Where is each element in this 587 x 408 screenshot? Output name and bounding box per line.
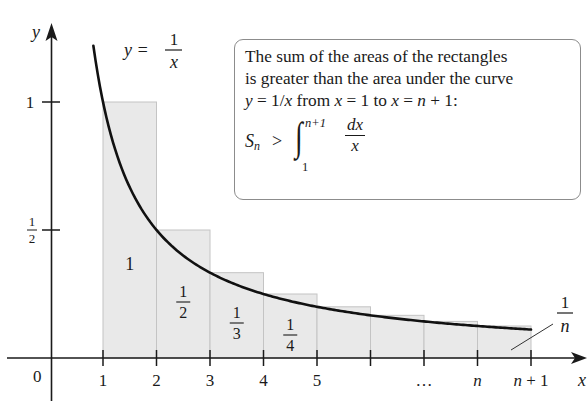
leader-label-denominator: n	[561, 316, 570, 336]
rectangle-area-denominator: 4	[286, 337, 294, 354]
curve-label: y = 1 x	[122, 30, 182, 72]
x-tick-label: 1	[99, 371, 108, 390]
curve-label-lhs: y =	[122, 40, 149, 60]
x-tick-label: …	[416, 371, 433, 390]
x-tick-label: 3	[206, 371, 215, 390]
x-tick-label: 4	[259, 371, 268, 390]
x-tick-label: 2	[152, 371, 161, 390]
integral-lower-limit: 1	[302, 156, 308, 178]
rectangle-area-label: 1	[125, 254, 134, 274]
integrand-fraction: dx x	[345, 115, 365, 156]
rectangle-area-denominator: 2	[179, 304, 187, 321]
rectangle-area-numerator: 1	[286, 316, 294, 333]
y-tick-label: 1	[26, 93, 35, 112]
integral-sign-icon: ∫	[295, 114, 303, 160]
rectangle-area-numerator: 1	[233, 304, 241, 321]
leader-label-numerator: 1	[561, 293, 570, 312]
rectangle-7	[424, 321, 478, 358]
x-tick-label: 5	[313, 371, 322, 390]
callout-line-2: is greater than the area under the curve	[245, 68, 580, 90]
y-axis-ticks: 112	[26, 93, 60, 246]
explanation-callout-box: The sum of the areas of the rectangles i…	[234, 39, 581, 200]
curve-label-numerator: 1	[170, 30, 179, 49]
origin-label: 0	[33, 367, 42, 386]
callout-line-1: The sum of the areas of the rectangles	[245, 46, 580, 68]
y-tick-label-denominator: 2	[29, 231, 36, 246]
curve-label-denominator: x	[169, 52, 178, 72]
integrand-numerator: dx	[345, 115, 365, 136]
x-tick-label: n	[473, 371, 482, 390]
rectangle-area-numerator: 1	[179, 283, 187, 300]
integral-upper-limit: n+1	[305, 112, 326, 134]
callout-line-3: y = 1/x from x = 1 to x = n + 1:	[245, 90, 580, 112]
x-axis-label: x	[577, 370, 586, 390]
sum-symbol: Sn	[245, 130, 260, 157]
x-tick-label: n + 1	[513, 371, 548, 390]
greater-than-sign: >	[272, 130, 282, 152]
rectangle-1	[103, 102, 157, 358]
y-tick-label-numerator: 1	[29, 214, 36, 229]
harmonic-integral-diagram: 1121314 12345…nn + 1 112 y x 0 y = 1 x 1…	[0, 0, 587, 408]
rectangle-area-denominator: 3	[233, 325, 241, 342]
inequality-formula: Sn > ∫ n+1 1 dx x	[245, 116, 580, 176]
y-axis-label: y	[30, 22, 40, 42]
integrand-denominator: x	[345, 136, 365, 156]
